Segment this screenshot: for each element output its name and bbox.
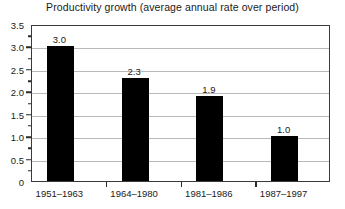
y-axis-tick-label: 2.5 xyxy=(11,64,24,75)
y-axis-tick-label: 1.0 xyxy=(11,132,24,143)
x-axis-tick-label: 1987–1997 xyxy=(260,188,308,199)
bar-value-label: 1.9 xyxy=(202,84,215,95)
gridline xyxy=(32,48,329,49)
y-axis-tick-label: 1.5 xyxy=(11,109,24,120)
x-axis-tick-mark xyxy=(255,182,257,187)
x-axis-tick-mark xyxy=(106,182,108,187)
gridline xyxy=(32,116,329,117)
x-axis-tick-label: 1951–1963 xyxy=(36,188,84,199)
bar-value-label: 2.3 xyxy=(128,66,141,77)
bar xyxy=(47,46,74,181)
chart-figure: Productivity growth (average annual rate… xyxy=(0,0,345,209)
plot-area xyxy=(31,25,330,182)
bar-value-label: 3.0 xyxy=(53,34,66,45)
y-axis-tick-label: 0.5 xyxy=(11,154,24,165)
y-axis-tick-label: 3.5 xyxy=(11,20,24,31)
y-axis: 00.51.01.52.02.53.03.5 xyxy=(0,0,31,209)
y-axis-tick-label: 0 xyxy=(19,177,24,188)
chart-title: Productivity growth (average annual rate… xyxy=(0,1,345,13)
bar xyxy=(196,96,223,181)
bar xyxy=(122,78,149,181)
gridline xyxy=(32,93,329,94)
y-axis-tick-label: 3.0 xyxy=(11,42,24,53)
y-axis-tick-label: 2.0 xyxy=(11,87,24,98)
bar xyxy=(271,136,298,181)
gridline xyxy=(32,71,329,72)
x-axis-tick-label: 1981–1986 xyxy=(185,188,233,199)
bar-value-label: 1.0 xyxy=(277,124,290,135)
x-axis-tick-mark xyxy=(181,182,183,187)
x-axis-tick-label: 1964–1980 xyxy=(110,188,158,199)
